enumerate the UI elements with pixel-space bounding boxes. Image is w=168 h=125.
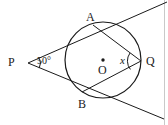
point-label-a: A	[86, 11, 95, 23]
angle-measure-label-p: 50°	[37, 56, 51, 66]
point-label-p: P	[8, 56, 15, 68]
center-point-dot	[101, 58, 104, 61]
tangent-line-pb	[28, 63, 164, 119]
chord-aq	[93, 25, 141, 61]
point-label-b: B	[78, 98, 86, 110]
point-label-q: Q	[146, 55, 155, 67]
chord-bq	[82, 61, 141, 92]
geometry-figure: P A B Q O 50° x	[0, 0, 168, 125]
center-label-o: O	[98, 64, 107, 76]
angle-variable-label-x: x	[120, 55, 125, 66]
